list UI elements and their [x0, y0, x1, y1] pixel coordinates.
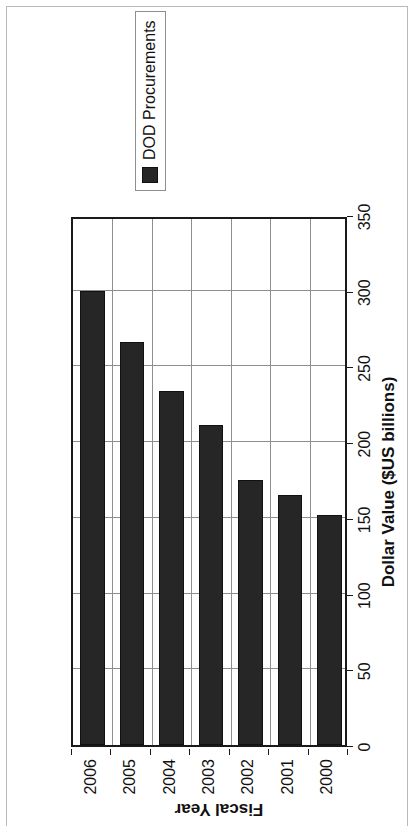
category-axis-label: 2006	[82, 759, 100, 795]
value-axis-tick-label: 0	[356, 743, 374, 752]
value-axis-tick-label: 50	[356, 662, 374, 680]
value-axis-tick-label: 150	[356, 507, 374, 534]
gridline-vertical	[73, 290, 345, 291]
gridline-horizontal	[152, 219, 153, 745]
category-axis-label: 2001	[279, 759, 297, 795]
category-axis-label: 2000	[318, 759, 336, 795]
value-axis-tick-label: 200	[356, 431, 374, 458]
plot-area	[71, 217, 347, 747]
bar	[199, 426, 223, 746]
legend-item-label: DOD Procurements	[141, 20, 159, 160]
category-axis-label: 2005	[121, 759, 139, 795]
value-axis-tick	[347, 367, 353, 368]
category-axis-tick	[268, 749, 269, 755]
legend-swatch-icon	[142, 167, 158, 183]
category-axis-tick	[308, 749, 309, 755]
value-axis-tick	[347, 746, 353, 747]
category-axis-tick	[189, 749, 190, 755]
gridline-horizontal	[270, 219, 271, 745]
gridline-horizontal	[191, 219, 192, 745]
value-axis-tick	[347, 216, 353, 217]
value-axis-tick-label: 100	[356, 582, 374, 609]
category-axis-label: 2002	[239, 759, 257, 795]
value-axis-tick-label: 300	[356, 279, 374, 306]
value-axis-tick	[347, 519, 353, 520]
category-axis-title: Fiscal Year	[139, 799, 299, 819]
plot-inner	[73, 219, 345, 745]
value-axis-tick	[347, 292, 353, 293]
legend: DOD Procurements	[135, 11, 166, 191]
gridline-vertical	[73, 365, 345, 366]
value-axis-tick	[347, 670, 353, 671]
category-axis-tick	[229, 749, 230, 755]
rotated-figure-wrapper: 050100150200250300350 Dollar Value ($US …	[7, 7, 407, 827]
value-axis-tick	[347, 595, 353, 596]
bar	[159, 391, 183, 745]
value-axis-tick-label: 350	[356, 204, 374, 231]
category-axis-tick	[110, 749, 111, 755]
category-axis-label: 2004	[161, 759, 179, 795]
category-axis-tick	[150, 749, 151, 755]
category-axis-label: 2003	[200, 759, 218, 795]
gridline-horizontal	[231, 219, 232, 745]
bar	[120, 342, 144, 745]
bar	[238, 480, 262, 745]
value-axis-tick-label: 250	[356, 355, 374, 382]
bar	[278, 495, 302, 745]
bar-chart-figure: 050100150200250300350 Dollar Value ($US …	[7, 7, 407, 827]
value-axis-tick	[347, 443, 353, 444]
bar	[317, 515, 341, 745]
value-axis: 050100150200250300350	[347, 217, 381, 747]
gridline-horizontal	[112, 219, 113, 745]
gridline-horizontal	[310, 219, 311, 745]
category-axis-tick	[71, 749, 72, 755]
category-axis-tick	[347, 749, 348, 755]
bar	[80, 291, 104, 745]
value-axis-title: Dollar Value ($US billions)	[379, 217, 399, 747]
